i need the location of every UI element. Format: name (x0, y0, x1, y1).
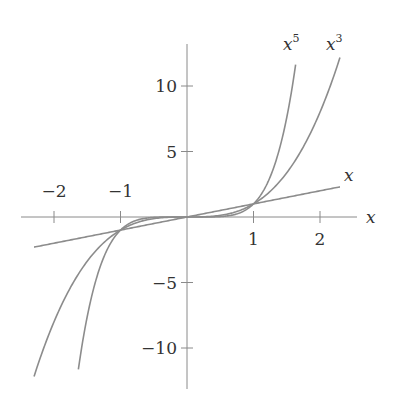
chart: −2−112105−5−10 x x x3 x5 (0, 0, 403, 402)
y-tick-label: −5 (152, 273, 177, 293)
series-label-x: x (344, 165, 354, 185)
y-tick-label: −10 (141, 338, 177, 358)
series-label-x3: x3 (326, 32, 343, 54)
x-tick-label: −1 (108, 181, 133, 201)
y-tick-label: 10 (155, 76, 177, 96)
y-tick-label: 5 (166, 142, 177, 162)
series-label-x5: x5 (283, 32, 300, 54)
x-tick-label: 2 (315, 229, 326, 249)
x-tick-label: −2 (41, 181, 66, 201)
x-axis-label: x (366, 207, 376, 227)
x-tick-label: 1 (248, 229, 259, 249)
